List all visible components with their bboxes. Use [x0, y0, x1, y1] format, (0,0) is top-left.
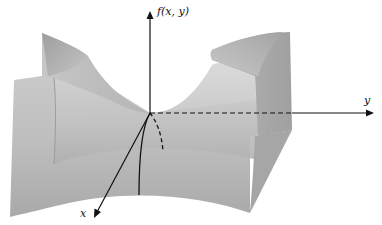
x-axis-label: x [80, 207, 86, 220]
surface-right-lower-flap [250, 130, 292, 213]
f-axis-arrowhead-icon [147, 11, 154, 19]
saddle-surface-diagram [0, 0, 382, 225]
f-axis-label: f(x, y) [157, 5, 189, 18]
y-axis-arrowhead-icon [366, 110, 374, 117]
y-axis-label: y [364, 94, 370, 107]
